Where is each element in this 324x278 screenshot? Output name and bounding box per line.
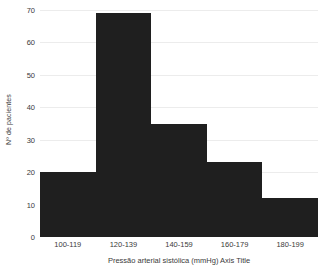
y-axis-tick-label: 50 xyxy=(27,70,35,79)
x-axis-title: Pressão arterial sistólica (mmHg) Axis T… xyxy=(40,256,318,265)
bar xyxy=(207,162,263,237)
y-axis-tick-label: 40 xyxy=(27,103,35,112)
plot-area xyxy=(40,10,318,237)
x-axis-tick-labels: 100-119120-139140-159160-179180-199 xyxy=(40,240,318,249)
y-axis-tick-label: 20 xyxy=(27,168,35,177)
x-axis-tick-label: 180-199 xyxy=(262,240,318,249)
y-axis-tick-label: 0 xyxy=(31,233,35,242)
x-axis-tick-label: 140-159 xyxy=(151,240,207,249)
x-axis-tick-label: 160-179 xyxy=(207,240,263,249)
y-axis-tick-labels: 010203040506070 xyxy=(16,0,38,278)
histogram-chart: Nº de pacientes 010203040506070 100-1191… xyxy=(0,0,324,278)
y-axis-title-label: Nº de pacientes xyxy=(5,94,12,145)
y-axis-tick-label: 60 xyxy=(27,38,35,47)
y-axis-tick-label: 10 xyxy=(27,200,35,209)
x-axis-tick-label: 120-139 xyxy=(96,240,152,249)
y-axis-tick-label: 30 xyxy=(27,135,35,144)
bar xyxy=(96,13,152,237)
x-axis-tick-label: 100-119 xyxy=(40,240,96,249)
y-axis-title: Nº de pacientes xyxy=(0,0,16,238)
bar xyxy=(40,172,96,237)
bar xyxy=(151,124,207,238)
bar xyxy=(262,198,318,237)
bar-series xyxy=(40,10,318,237)
y-axis-tick-label: 70 xyxy=(27,6,35,15)
